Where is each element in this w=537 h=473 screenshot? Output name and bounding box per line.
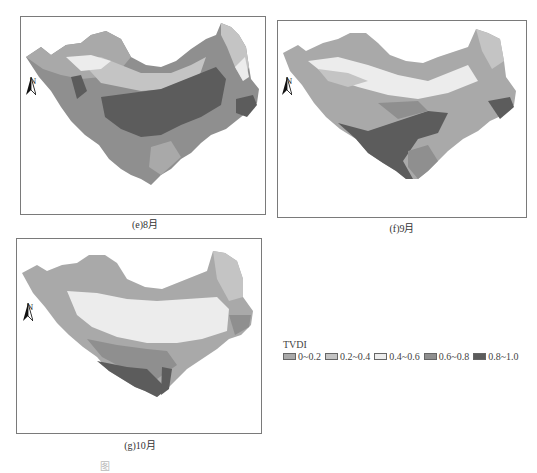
north-arrow-icon — [26, 77, 36, 95]
caption-e: (e)8月 — [120, 216, 170, 231]
legend-swatch — [473, 353, 486, 360]
figure-caption: 图 — [100, 458, 110, 473]
caption-g: (g)10月 — [110, 437, 170, 452]
legend-item: 0.6~0.8 — [424, 351, 469, 362]
legend-label: 0.6~0.8 — [439, 351, 469, 362]
legend-item: 0.8~1.0 — [473, 351, 518, 362]
legend-title: TVDI — [283, 339, 519, 350]
tvdi-map-october — [17, 239, 263, 435]
tvdi-map-september — [278, 21, 528, 219]
tvdi-legend: TVDI 0~0.2 0.2~0.4 0.4~0.6 0.6~0.8 0.8~1… — [283, 339, 519, 362]
north-arrow-icon — [282, 77, 292, 95]
legend-item: 0~0.2 — [283, 351, 321, 362]
north-arrow: N — [23, 303, 37, 312]
legend-item: 0.2~0.4 — [325, 351, 370, 362]
north-arrow-icon — [23, 303, 33, 321]
legend-swatch — [283, 353, 296, 360]
north-arrow: N — [282, 77, 296, 86]
map-panel-f: N — [277, 20, 527, 218]
legend-label: 0~0.2 — [298, 351, 321, 362]
north-arrow: N — [26, 77, 40, 86]
map-panel-g: N — [16, 238, 262, 434]
legend-swatch — [424, 353, 437, 360]
legend-swatch — [325, 353, 338, 360]
legend-label: 0.8~1.0 — [488, 351, 518, 362]
map-panel-e: N — [20, 16, 266, 215]
legend-label: 0.2~0.4 — [340, 351, 370, 362]
legend-label: 0.4~0.6 — [389, 351, 419, 362]
caption-f: (f)9月 — [377, 220, 427, 235]
tvdi-map-august — [21, 17, 267, 216]
legend-swatch — [374, 353, 387, 360]
legend-item: 0.4~0.6 — [374, 351, 419, 362]
